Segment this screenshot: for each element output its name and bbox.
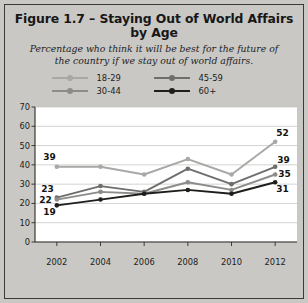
data-point-label: 19 <box>43 207 56 217</box>
page-title: Figure 1.7 – Staying Out of World Affair… <box>11 12 297 39</box>
x-axis-tick-labels: 200220042006200820102012 <box>11 254 295 270</box>
data-point <box>186 180 191 185</box>
data-point <box>55 197 60 202</box>
data-point-label: 39 <box>43 152 56 162</box>
legend-item-18-29: 18-29 <box>52 73 154 83</box>
figure-container: Figure 1.7 – Staying Out of World Affair… <box>0 0 308 303</box>
legend-line-icon <box>154 73 190 82</box>
data-point <box>142 191 147 196</box>
data-point <box>142 172 147 177</box>
data-point-label: 52 <box>276 128 289 138</box>
x-axis-tick-label: 2004 <box>90 257 111 267</box>
y-axis-tick-label: 40 <box>19 160 30 170</box>
data-point-label: 35 <box>278 168 291 178</box>
legend-item-45-59: 45-59 <box>154 73 256 83</box>
legend-line-icon <box>52 73 88 82</box>
legend-line-icon <box>52 86 88 95</box>
data-point-label: 22 <box>39 195 52 205</box>
data-point <box>273 172 278 177</box>
data-point <box>98 184 103 189</box>
data-point-label: 31 <box>276 184 289 194</box>
data-point <box>186 157 191 162</box>
data-point <box>229 182 234 187</box>
data-point <box>229 172 234 177</box>
data-point <box>273 139 278 144</box>
data-point <box>186 166 191 171</box>
legend-item-60-plus: 60+ <box>154 86 256 96</box>
data-point <box>273 164 278 169</box>
y-axis-tick-label: 30 <box>19 179 30 189</box>
y-axis-tick-label: 50 <box>19 141 30 151</box>
figure-frame: Figure 1.7 – Staying Out of World Affair… <box>4 4 304 299</box>
legend-row: 18-29 45-59 <box>52 73 257 83</box>
x-axis-tick-label: 2010 <box>221 257 242 267</box>
y-axis-tick-label: 20 <box>19 198 30 208</box>
data-point-label: 39 <box>277 155 290 165</box>
y-axis-tick-label: 10 <box>19 218 30 228</box>
data-point <box>186 188 191 193</box>
legend-row: 30-44 60+ <box>52 86 257 96</box>
legend-label: 18-29 <box>97 73 121 83</box>
data-point <box>55 164 60 169</box>
data-point-label: 23 <box>41 184 54 194</box>
y-axis-tick-label: 70 <box>19 102 30 112</box>
chart-legend: 18-29 45-59 30-44 <box>5 73 303 96</box>
x-axis-tick-label: 2002 <box>46 257 67 267</box>
y-axis-tick-label: 60 <box>19 121 30 131</box>
legend-label: 60+ <box>199 86 217 96</box>
legend-line-icon <box>154 86 190 95</box>
legend-label: 45-59 <box>199 73 223 83</box>
figure-subtitle: Percentage who think it will be best for… <box>29 43 279 66</box>
legend-label: 30-44 <box>97 86 121 96</box>
chart-plot-area: 0102030405060703923221952393531 20022004… <box>11 102 295 254</box>
x-axis-tick-label: 2006 <box>134 257 155 267</box>
data-point <box>98 197 103 202</box>
data-point <box>229 191 234 196</box>
line-chart-svg: 0102030405060703923221952393531 <box>11 102 303 254</box>
y-axis-tick-label: 0 <box>25 237 30 247</box>
data-point <box>98 164 103 169</box>
legend-item-30-44: 30-44 <box>52 86 154 96</box>
x-axis-tick-label: 2008 <box>177 257 198 267</box>
data-point <box>98 189 103 194</box>
x-axis-tick-label: 2012 <box>265 257 286 267</box>
